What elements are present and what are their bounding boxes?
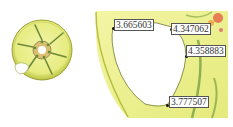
value-label-3: 4.358883	[186, 45, 226, 57]
value-label-1: 3.665603	[114, 19, 154, 31]
wheel-overview	[12, 20, 72, 80]
value-label-2: 4.347062	[171, 23, 211, 35]
value-label-4: 3.777507	[169, 96, 209, 108]
